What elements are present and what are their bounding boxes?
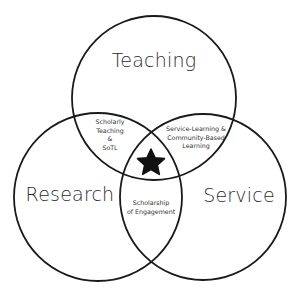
service-label: Service	[198, 184, 280, 206]
teaching-label: Teaching	[104, 49, 204, 71]
venn-diagram: Teaching Research Service Scholarly Teac…	[0, 0, 303, 295]
intersection-text-line: SoTL	[88, 144, 132, 153]
intersection-text-line: Service-Learning &	[160, 125, 232, 134]
intersection-text-line: &	[88, 135, 132, 144]
venn-circles	[0, 0, 303, 295]
teaching-service-intersection-label: Service-Learning & Community-Based Learn…	[160, 125, 232, 151]
intersection-text-line: of Engagement	[123, 208, 179, 217]
intersection-text-line: Scholarly	[88, 118, 132, 127]
star-icon	[138, 149, 165, 174]
intersection-text-line: Scholarship	[123, 199, 179, 208]
research-service-intersection-label: Scholarship of Engagement	[123, 199, 179, 216]
intersection-text-line: Teaching	[88, 127, 132, 136]
teaching-research-intersection-label: Scholarly Teaching & SoTL	[88, 118, 132, 152]
intersection-text-line: Community-Based	[160, 134, 232, 143]
research-label: Research	[22, 183, 118, 205]
intersection-text-line: Learning	[160, 142, 232, 151]
